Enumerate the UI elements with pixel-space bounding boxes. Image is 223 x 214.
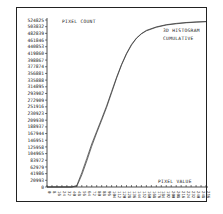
y-tick-label: 356881 bbox=[27, 71, 44, 76]
x-tick-label: 248 bbox=[201, 191, 206, 199]
y-tick-label: 272909 bbox=[27, 98, 44, 103]
y-tick-label: 104965 bbox=[27, 151, 44, 156]
x-tick-label: 32 bbox=[67, 191, 72, 196]
y-tick-label: 167944 bbox=[27, 131, 44, 136]
y-tick-label: 482839 bbox=[27, 31, 44, 36]
y-axis-title: PIXEL COUNT bbox=[62, 19, 96, 24]
x-tick-label: 56 bbox=[82, 191, 87, 196]
x-tick-label: 256 bbox=[206, 191, 211, 199]
y-tick-label: 377874 bbox=[27, 64, 44, 69]
x-tick-label: 152 bbox=[142, 191, 147, 199]
y-tick-label: 461846 bbox=[27, 38, 44, 43]
x-tick-label: 192 bbox=[166, 191, 171, 199]
x-tick-label: 88 bbox=[102, 191, 107, 196]
y-tick-label: 62979 bbox=[30, 165, 44, 170]
x-tick-label: 200 bbox=[171, 191, 176, 199]
y-tick-label: 230923 bbox=[27, 111, 44, 116]
y-tick-label: 0 bbox=[41, 185, 44, 190]
cumulative-curve bbox=[47, 22, 206, 188]
y-tick-label: 251916 bbox=[27, 104, 44, 109]
y-tick-label: 125958 bbox=[27, 145, 44, 150]
y-tick-label: 293902 bbox=[27, 91, 44, 96]
annotation-line-1: 3D HISTOGRAM bbox=[163, 28, 200, 33]
x-tick-label: 168 bbox=[152, 191, 157, 199]
x-tick-label: 216 bbox=[181, 191, 186, 199]
x-tick-label: 144 bbox=[137, 191, 142, 199]
x-tick-label: 0 bbox=[47, 191, 52, 194]
x-tick-label: 160 bbox=[147, 191, 152, 199]
y-tick-label: 41986 bbox=[30, 171, 44, 176]
x-tick-label: 96 bbox=[107, 191, 112, 196]
x-tick-label: 24 bbox=[62, 191, 67, 196]
y-tick-label: 440853 bbox=[27, 44, 44, 49]
x-tick-label: 112 bbox=[117, 191, 122, 199]
x-tick-label: 208 bbox=[176, 191, 181, 199]
cumulative-curve bbox=[47, 22, 206, 187]
x-tick-label: 8 bbox=[52, 191, 57, 194]
y-tick-label: 146951 bbox=[27, 138, 44, 143]
y-tick-label: 335888 bbox=[27, 78, 44, 83]
cumulative-histogram-chart: 0209934198662979839721049651259581469511… bbox=[0, 0, 223, 214]
x-tick-label: 72 bbox=[92, 191, 97, 196]
annotation-line-2: CUMULATIVE bbox=[163, 36, 194, 41]
x-tick-label: 240 bbox=[196, 191, 201, 199]
x-tick-label: 104 bbox=[112, 191, 117, 199]
y-tick-label: 524825 bbox=[27, 18, 44, 23]
y-tick-label: 20993 bbox=[30, 178, 44, 183]
x-tick-label: 224 bbox=[186, 191, 191, 199]
x-tick-label: 40 bbox=[72, 191, 77, 196]
x-tick-label: 48 bbox=[77, 191, 82, 196]
x-tick-label: 136 bbox=[132, 191, 137, 199]
y-tick-label: 419860 bbox=[27, 51, 44, 56]
y-tick-label: 503832 bbox=[27, 24, 44, 29]
x-tick-label: 128 bbox=[127, 191, 132, 199]
x-tick-label: 120 bbox=[122, 191, 127, 199]
x-axis-title: PIXEL VALUE bbox=[158, 179, 192, 184]
y-tick-label: 398867 bbox=[27, 58, 44, 63]
y-axis: 0209934198662979839721049651259581469511… bbox=[27, 18, 47, 190]
data-curves bbox=[47, 22, 206, 188]
y-tick-label: 209930 bbox=[27, 118, 44, 123]
x-tick-label: 184 bbox=[161, 191, 166, 199]
y-tick-label: 188937 bbox=[27, 124, 44, 129]
y-tick-label: 83972 bbox=[30, 158, 44, 163]
x-tick-label: 176 bbox=[157, 191, 162, 199]
x-tick-label: 64 bbox=[87, 191, 92, 196]
x-tick-label: 232 bbox=[191, 191, 196, 199]
x-tick-label: 80 bbox=[97, 191, 102, 196]
y-tick-label: 314895 bbox=[27, 84, 44, 89]
